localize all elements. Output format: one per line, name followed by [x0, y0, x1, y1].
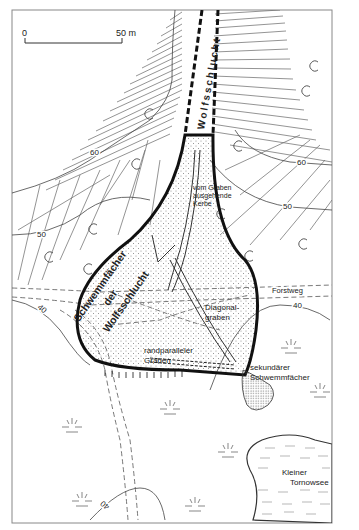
kerbe-label-line2: ausgehende: [193, 192, 232, 200]
scale-end-label: 50 m: [116, 28, 136, 38]
marsh-icon: [160, 400, 180, 414]
marsh-icon: [62, 418, 82, 432]
alluvial-fan-outline: [77, 135, 257, 375]
depression-icon: [84, 264, 92, 274]
contour-label-50-left: 50: [37, 230, 46, 239]
contour-label-60-left: 60: [90, 148, 99, 157]
contour-60-left: [12, 10, 175, 193]
marsh-icon: [281, 339, 301, 353]
secondary-fan-label-line2: Schwemmfächer: [250, 373, 310, 382]
depression-icon: [299, 239, 307, 249]
randparallel-label-line1: randparalleler: [144, 346, 193, 355]
marsh-icon: [218, 443, 238, 457]
depression-icon: [302, 86, 310, 96]
lake-label-line1: Kleiner: [282, 468, 307, 477]
kerbe-label-line3: Kerbe: [193, 200, 212, 207]
marsh-icon: [185, 497, 205, 511]
diagonal-label-line2: graben: [205, 313, 230, 322]
randparallel-label-line2: Graben: [144, 356, 171, 365]
contour-label-40-left: 40: [36, 303, 49, 316]
contour-label-60-right: 60: [297, 158, 306, 167]
depression-icon: [310, 61, 318, 71]
contour-label-40-right: 40: [293, 301, 302, 310]
contour-label-50-right: 50: [283, 202, 292, 211]
slope-hachures-right: [212, 10, 332, 245]
diagonal-label-line1: Diagonal-: [205, 303, 240, 312]
marsh-icon: [72, 492, 92, 506]
map-canvas: 0 50 m Wolfsschlucht Schwemmfächer der W…: [0, 0, 359, 530]
depression-icon: [89, 224, 97, 234]
secondary-fan-label-line1: sekundärer: [250, 363, 290, 372]
forstweg-label: Forstweg: [272, 286, 303, 295]
kerbe-label-line1: vom Graben: [193, 184, 232, 191]
depression-icon: [132, 159, 140, 169]
marsh-icon: [310, 383, 330, 397]
secondary-fan-label: sekundärer Schwemmfächer: [250, 363, 310, 382]
scale-bar: 0 50 m: [22, 28, 136, 43]
scale-start-label: 0: [22, 28, 27, 38]
lake-label-line2: Tornowsee: [290, 478, 329, 487]
